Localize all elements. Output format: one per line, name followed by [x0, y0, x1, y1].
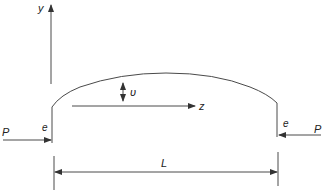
curved-member: [52, 73, 277, 143]
load-left-label: P: [2, 126, 10, 138]
length-label: L: [161, 157, 167, 169]
load-right-label: P: [314, 123, 322, 135]
eccentricity-right-label: e: [283, 118, 289, 129]
length-dimension: L: [54, 152, 278, 190]
deflection-label: υ: [130, 86, 136, 98]
y-axis-label: y: [37, 2, 45, 14]
load-left: P e: [2, 122, 51, 140]
z-axis-label: z: [198, 100, 205, 112]
y-axis: y: [37, 2, 51, 84]
arch-curve: [52, 73, 277, 107]
eccentricity-left-label: e: [42, 122, 48, 133]
column-diagram: y z υ P e P e L: [0, 0, 325, 195]
load-right: P e: [279, 118, 322, 135]
z-axis: z: [72, 100, 205, 112]
deflection-indicator: υ: [123, 83, 136, 101]
